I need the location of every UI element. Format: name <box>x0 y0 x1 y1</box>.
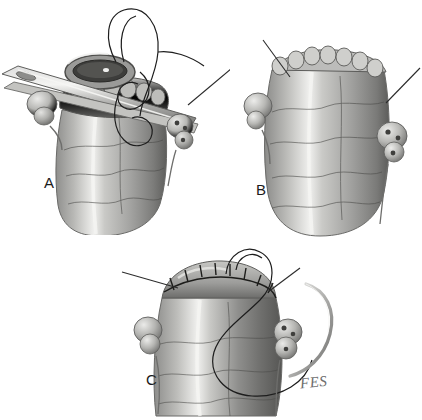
panel-c-illustration <box>100 248 350 420</box>
panel-label-a: A <box>44 175 55 190</box>
organ-body-b <box>265 70 390 236</box>
panel-c: C <box>100 248 350 420</box>
panel-b: B <box>232 8 422 243</box>
medical-figure: A <box>0 0 422 420</box>
leader-line-b-right <box>386 68 420 103</box>
leader-line-c-right <box>268 268 300 292</box>
panel-a: A <box>0 0 230 235</box>
artist-signature: FES <box>299 373 328 393</box>
organ-body-a <box>56 110 167 235</box>
panel-label-b: B <box>256 182 267 197</box>
panel-label-c: C <box>146 372 157 387</box>
panel-b-illustration <box>232 8 422 243</box>
leader-line-a <box>188 68 230 105</box>
right-nodule-a <box>167 114 193 186</box>
panel-a-illustration <box>0 0 230 235</box>
organ-body-c <box>154 298 282 416</box>
